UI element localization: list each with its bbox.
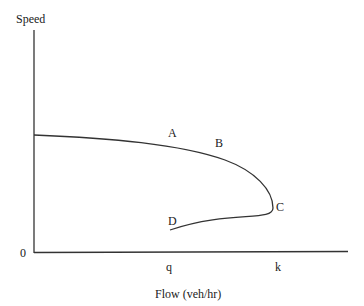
point-label-c: C: [276, 201, 284, 213]
x-axis-label: Flow (veh/hr): [155, 288, 221, 300]
point-label-d: D: [168, 215, 177, 227]
speed-flow-curve: [34, 135, 273, 230]
origin-label: 0: [20, 247, 26, 259]
x-tick-q: q: [166, 261, 172, 273]
y-axis-label: Speed: [16, 13, 45, 25]
speed-flow-diagram: Speed 0 q k Flow (veh/hr) A B C D: [0, 0, 364, 306]
point-label-b: B: [215, 137, 223, 149]
point-label-a: A: [168, 127, 177, 139]
x-tick-k: k: [275, 261, 281, 273]
diagram-graphics: [0, 0, 364, 306]
x-axis: [34, 252, 348, 253]
